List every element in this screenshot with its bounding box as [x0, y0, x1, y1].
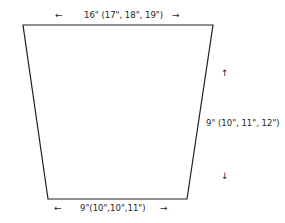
right-arrow-icon: →: [160, 204, 168, 213]
right-arrow-icon: →: [172, 11, 180, 20]
left-arrow-icon: ←: [54, 204, 62, 213]
left-arrow-icon: ←: [55, 11, 63, 20]
down-arrow-icon: ↓: [221, 172, 229, 181]
top-width-label: 16" (17", 18", 19"): [84, 11, 163, 20]
bottom-width-label: 9"(10",10",11"): [80, 204, 146, 213]
up-arrow-icon: ↑: [221, 69, 229, 78]
pattern-piece-outline: [0, 0, 285, 223]
height-label: 9" (10", 11", 12"): [206, 119, 280, 128]
